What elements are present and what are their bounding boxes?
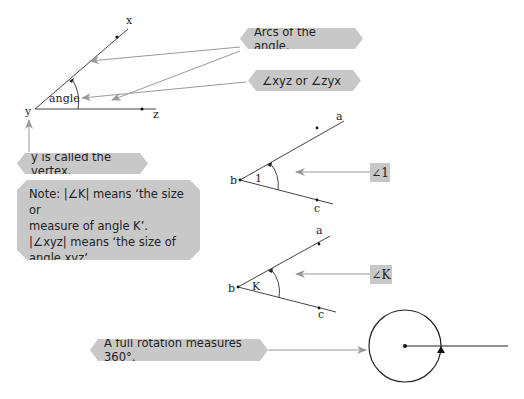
point-label-z: z (153, 108, 159, 121)
full-rotation-diagram (268, 310, 508, 382)
angle-tag-k-text: ∠K (371, 268, 390, 282)
vertex-label-b-2: b (228, 282, 235, 295)
note-box: Note: |∠K| means ‘the size or measure of… (17, 180, 200, 260)
angle-tag-1: ∠1 (370, 163, 390, 182)
callout-arcs: Arcs of the angle. (240, 28, 363, 49)
point-label-c-1: c (314, 202, 320, 215)
callout-angle-names-text: ∠xyz or ∠zyx (262, 74, 341, 88)
callout-angle-names: ∠xyz or ∠zyx (248, 70, 361, 91)
angle-k-diagram (237, 236, 370, 312)
angle-tag-k: ∠K (370, 265, 392, 284)
point-label-c-2: c (318, 308, 324, 321)
point-label-a-2: a (316, 224, 323, 237)
callout-vertex-text: y is called the vertex. (31, 150, 134, 178)
note-line-2: measure of angle K’. (29, 218, 148, 234)
callout-arcs-text: Arcs of the angle. (254, 25, 349, 53)
angle-label: angle (49, 92, 80, 105)
angle-label-1: 1 (255, 172, 262, 185)
note-line-1: Note: |∠K| means ‘the size or (29, 186, 188, 218)
point-label-a-1: a (336, 110, 343, 123)
callout-full-rotation-text: A full rotation measures 360°. (104, 336, 254, 364)
point-label-x: x (126, 14, 132, 27)
vertex-label-b-1: b (230, 174, 237, 187)
callout-full-rotation: A full rotation measures 360°. (90, 339, 268, 361)
note-line-3: |∠xyz| means ‘the size of (29, 234, 176, 250)
angle-1-diagram (239, 121, 370, 204)
vertex-label-y: y (25, 105, 31, 118)
angle-xyz-diagram (29, 29, 246, 152)
angle-tag-1-text: ∠1 (371, 166, 389, 180)
angle-label-k: K (252, 280, 260, 293)
callout-vertex: y is called the vertex. (17, 153, 148, 174)
